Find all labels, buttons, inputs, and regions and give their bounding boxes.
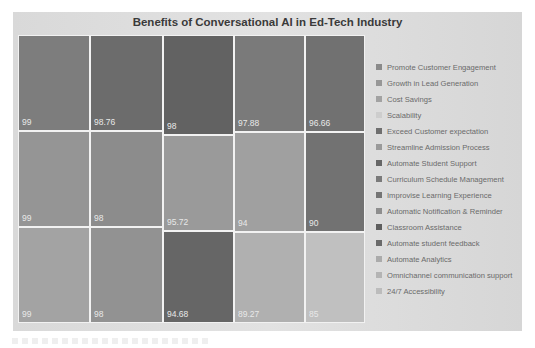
cropped-caption-fragment bbox=[12, 338, 212, 344]
legend-label: Promote Customer Engagement bbox=[387, 63, 496, 72]
legend-label: Improvise Learning Experience bbox=[387, 191, 492, 200]
legend-label: Automate Student Support bbox=[387, 159, 477, 168]
cell-value-label: 98 bbox=[94, 309, 103, 319]
treemap-cell: 98.76 bbox=[90, 35, 163, 131]
legend-item[interactable]: Automate student feedback bbox=[376, 235, 516, 251]
legend-swatch-icon bbox=[376, 224, 382, 230]
treemap-cell: 99 bbox=[18, 35, 90, 131]
treemap: 9998.769897.8896.66999895.729490999894.6… bbox=[18, 35, 365, 323]
legend-swatch-icon bbox=[376, 240, 382, 246]
legend-swatch-icon bbox=[376, 256, 382, 262]
cell-value-label: 95.72 bbox=[167, 217, 188, 227]
legend-swatch-icon bbox=[376, 128, 382, 134]
legend-swatch-icon bbox=[376, 64, 382, 70]
chart-panel: Benefits of Conversational AI in Ed-Tech… bbox=[13, 12, 522, 331]
legend-item[interactable]: Classroom Assistance bbox=[376, 219, 516, 235]
treemap-cell: 99 bbox=[18, 131, 90, 227]
treemap-cell: 94.68 bbox=[163, 231, 234, 323]
treemap-cell: 89.27 bbox=[234, 232, 305, 323]
treemap-cell: 98 bbox=[163, 35, 234, 135]
legend-swatch-icon bbox=[376, 112, 382, 118]
treemap-cell: 98 bbox=[90, 131, 163, 227]
legend-label: Automatic Notification & Reminder bbox=[387, 207, 503, 216]
cell-value-label: 98 bbox=[167, 121, 176, 131]
legend-item[interactable]: Exceed Customer expectation bbox=[376, 123, 516, 139]
legend-swatch-icon bbox=[376, 96, 382, 102]
legend-item[interactable]: Automate Student Support bbox=[376, 155, 516, 171]
legend-item[interactable]: Automate Analytics bbox=[376, 251, 516, 267]
legend-label: Automate student feedback bbox=[387, 239, 479, 248]
legend-item[interactable]: Growth in Lead Generation bbox=[376, 75, 516, 91]
legend-label: Curriculum Schedule Management bbox=[387, 175, 504, 184]
legend-label: Scalability bbox=[387, 111, 421, 120]
treemap-cell: 96.66 bbox=[305, 35, 365, 132]
cell-value-label: 99 bbox=[22, 213, 31, 223]
legend-swatch-icon bbox=[376, 160, 382, 166]
treemap-cell: 98 bbox=[90, 227, 163, 323]
treemap-cell: 95.72 bbox=[163, 135, 234, 231]
legend-swatch-icon bbox=[376, 80, 382, 86]
legend-label: Automate Analytics bbox=[387, 255, 452, 264]
treemap-cell: 94 bbox=[234, 132, 305, 232]
treemap-cell: 85 bbox=[305, 232, 365, 323]
chart-title: Benefits of Conversational AI in Ed-Tech… bbox=[13, 16, 522, 28]
legend-label: Streamline Admission Process bbox=[387, 143, 490, 152]
cell-value-label: 98.76 bbox=[94, 117, 115, 127]
legend-swatch-icon bbox=[376, 288, 382, 294]
cell-value-label: 90 bbox=[309, 218, 318, 228]
legend-label: 24/7 Accessibility bbox=[387, 287, 445, 296]
cell-value-label: 94.68 bbox=[167, 309, 188, 319]
legend-label: Cost Savings bbox=[387, 95, 432, 104]
cell-value-label: 85 bbox=[309, 309, 318, 319]
legend-item[interactable]: Omnichannel communication support bbox=[376, 267, 516, 283]
cell-value-label: 89.27 bbox=[238, 309, 259, 319]
legend-label: Classroom Assistance bbox=[387, 223, 462, 232]
treemap-cell: 99 bbox=[18, 227, 90, 323]
legend-item[interactable]: Curriculum Schedule Management bbox=[376, 171, 516, 187]
legend-swatch-icon bbox=[376, 192, 382, 198]
legend-item[interactable]: 24/7 Accessibility bbox=[376, 283, 516, 299]
legend-swatch-icon bbox=[376, 176, 382, 182]
legend-label: Omnichannel communication support bbox=[387, 271, 512, 280]
legend-item[interactable]: Cost Savings bbox=[376, 91, 516, 107]
cell-value-label: 97.88 bbox=[238, 118, 259, 128]
legend-swatch-icon bbox=[376, 208, 382, 214]
legend-item[interactable]: Improvise Learning Experience bbox=[376, 187, 516, 203]
treemap-cell: 90 bbox=[305, 132, 365, 232]
legend-item[interactable]: Streamline Admission Process bbox=[376, 139, 516, 155]
cell-value-label: 99 bbox=[22, 309, 31, 319]
legend-item[interactable]: Scalability bbox=[376, 107, 516, 123]
cell-value-label: 96.66 bbox=[309, 118, 330, 128]
cell-value-label: 94 bbox=[238, 218, 247, 228]
legend-item[interactable]: Promote Customer Engagement bbox=[376, 59, 516, 75]
legend-item[interactable]: Automatic Notification & Reminder bbox=[376, 203, 516, 219]
legend-label: Exceed Customer expectation bbox=[387, 127, 488, 136]
cell-value-label: 99 bbox=[22, 117, 31, 127]
legend-label: Growth in Lead Generation bbox=[387, 79, 478, 88]
treemap-cell: 97.88 bbox=[234, 35, 305, 132]
cell-value-label: 98 bbox=[94, 213, 103, 223]
legend-swatch-icon bbox=[376, 272, 382, 278]
legend-swatch-icon bbox=[376, 144, 382, 150]
legend: Promote Customer EngagementGrowth in Lea… bbox=[376, 59, 516, 299]
